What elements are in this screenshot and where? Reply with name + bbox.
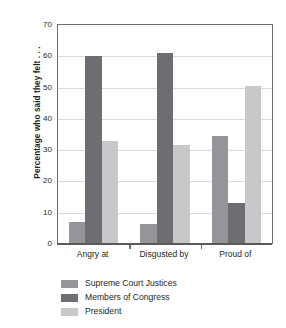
bar-proud-of-president xyxy=(245,86,262,244)
legend-item: President xyxy=(61,305,261,318)
x-axis-tick xyxy=(129,244,130,249)
bar-angry-at-supreme-court-justices xyxy=(69,222,86,244)
bar-chart-figure: Percentage who said they felt . . . 0102… xyxy=(0,0,286,328)
y-tick-label: 0 xyxy=(31,239,52,248)
bar-disgusted-by-members-of-congress xyxy=(157,53,174,244)
plot-area xyxy=(57,24,273,244)
legend-swatch-icon xyxy=(61,280,78,288)
category-label-angry-at: Angry at xyxy=(77,249,109,259)
bar-proud-of-members-of-congress xyxy=(228,203,245,244)
bar-angry-at-members-of-congress xyxy=(85,56,102,244)
legend-label: Members of Congress xyxy=(85,293,170,302)
y-axis-title: Percentage who said they felt . . . xyxy=(0,0,24,250)
legend-swatch-icon xyxy=(61,308,78,316)
bar-angry-at-president xyxy=(102,141,119,244)
x-axis-line xyxy=(57,243,272,245)
legend-swatch-icon xyxy=(61,294,78,302)
legend-label: Supreme Court Justices xyxy=(85,279,177,288)
category-label-disgusted-by: Disgusted by xyxy=(139,249,188,259)
x-axis-tick xyxy=(201,244,202,249)
category-label-proud-of: Proud of xyxy=(219,249,251,259)
bar-proud-of-supreme-court-justices xyxy=(212,136,229,244)
bar-disgusted-by-president xyxy=(173,145,190,244)
legend-item: Supreme Court Justices xyxy=(61,277,261,290)
y-axis-title-text: Percentage who said they felt . . . xyxy=(33,13,42,213)
legend-label: President xyxy=(85,307,121,316)
chart-legend: Supreme Court JusticesMembers of Congres… xyxy=(61,277,261,319)
legend-item: Members of Congress xyxy=(61,291,261,304)
bar-disgusted-by-supreme-court-justices xyxy=(140,224,157,244)
